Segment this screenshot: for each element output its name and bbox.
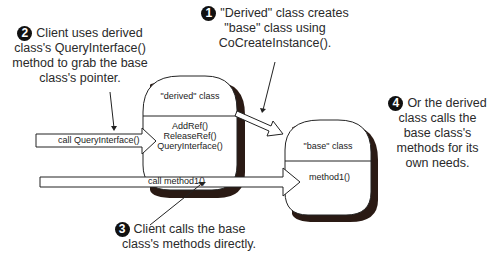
note-1-pointer [263,62,275,110]
base-class-method1: method1() [309,172,350,182]
method-queryinterface: QueryInterface() [143,141,237,151]
step-2-badge: 2 [17,26,32,41]
step-3-badge: 3 [115,222,130,237]
note-1-pointer-head [260,108,266,113]
step-4-badge: 4 [388,96,403,111]
note-1: 1"Derived" class creates "base" class us… [200,6,350,51]
method-releaseref: ReleaseRef() [143,131,237,141]
derived-class-methods: AddRef() ReleaseRef() QueryInterface() [143,121,237,151]
method-addref: AddRef() [143,121,237,131]
base-class-box [285,120,371,215]
query-interface-label: call QueryInterface() [58,135,140,145]
base-class-title: "base" class [285,141,371,151]
step-1-badge: 1 [201,6,216,21]
note-2-pointer-head [111,126,117,131]
note-2: 2Client uses derived class's QueryInterf… [10,26,150,86]
note-2-pointer [110,92,114,128]
derived-class-title: "derived" class [143,91,237,101]
note-3: 3Client calls the base class's methods d… [100,222,260,252]
method1-label: call method1() [148,176,205,186]
note-4: 4Or the derived class calls the base cla… [385,96,490,171]
